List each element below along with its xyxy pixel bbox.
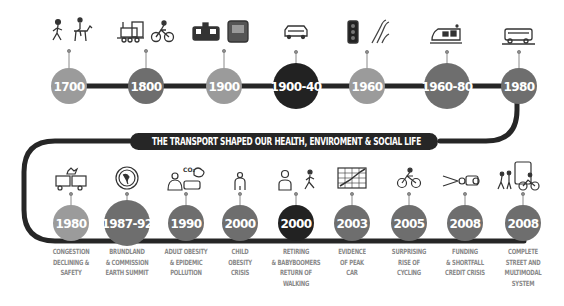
milestone-2008-complete: 2008 bbox=[505, 205, 541, 241]
svg-text:1800: 1800 bbox=[131, 80, 162, 94]
svg-text:2005: 2005 bbox=[394, 217, 425, 231]
walker-icon bbox=[305, 170, 314, 189]
light-rail-icon bbox=[430, 25, 462, 43]
subway-icon bbox=[228, 21, 248, 42]
milestone-1980-bottom: 1980 bbox=[53, 205, 89, 241]
label-line: SURPRISING bbox=[380, 247, 437, 258]
tram-icon bbox=[193, 23, 219, 40]
transport-timeline-infographic: 1700 1800 1900 1900-40 1960 1960-80 1980 bbox=[0, 0, 564, 306]
label-line: POLLUTION bbox=[157, 268, 214, 279]
svg-text:1900: 1900 bbox=[209, 80, 240, 94]
label-line: RETURN OF bbox=[267, 268, 324, 279]
label-line: OF PEAK bbox=[323, 258, 380, 269]
label-line: FUNDING bbox=[436, 247, 493, 258]
label-line: CRISIS bbox=[211, 268, 268, 279]
milestone-2008-funding: 2008 bbox=[447, 205, 483, 241]
cyclist-icon bbox=[398, 168, 421, 188]
label-line: WALKING bbox=[267, 279, 324, 290]
milestone-1980-top: 1980 bbox=[501, 68, 537, 104]
milestone-1900: 1900 bbox=[206, 68, 242, 104]
milestone-2000-child: 2000 bbox=[222, 205, 258, 241]
label-line: CHILD bbox=[211, 247, 268, 258]
svg-text:1960-80: 1960-80 bbox=[422, 80, 473, 94]
scissors-money-icon bbox=[443, 176, 479, 186]
label-funding: FUNDING & SHORTFALL CREDIT CRISIS bbox=[436, 247, 493, 279]
svg-text:1990: 1990 bbox=[171, 217, 202, 231]
label-cycling: SURPRISING RISE OF CYCLING bbox=[380, 247, 437, 279]
svg-text:2003: 2003 bbox=[337, 217, 368, 231]
milestone-1800: 1800 bbox=[128, 68, 164, 104]
bicycle-icon bbox=[152, 21, 174, 42]
child-icon bbox=[235, 173, 245, 191]
label-line: SAFETY bbox=[42, 268, 99, 279]
label-line: & EPIDEMIC bbox=[157, 258, 214, 269]
milestone-1960: 1960 bbox=[349, 68, 385, 104]
label-line: ADULT OBESITY bbox=[157, 247, 214, 258]
label-congestion: CONGESTION DECLINING & SAFETY bbox=[42, 247, 99, 279]
top-row: 1700 1800 1900 1900-40 1960 1960-80 1980 bbox=[51, 18, 537, 109]
elderly-person-icon bbox=[279, 171, 291, 191]
multimodal-street-icon bbox=[498, 162, 539, 190]
svg-text:2008: 2008 bbox=[450, 217, 481, 231]
timeline-banner: THE TRANSPORT SHAPED OUR HEALTH, ENVIROM… bbox=[130, 133, 438, 150]
banner-text: THE TRANSPORT SHAPED OUR HEALTH, ENVIROM… bbox=[152, 133, 421, 150]
peak-chart-icon bbox=[338, 168, 366, 188]
svg-text:1987-92: 1987-92 bbox=[102, 217, 153, 231]
label-line: CONGESTION bbox=[42, 247, 99, 258]
milestone-1960-80: 1960-80 bbox=[422, 63, 473, 109]
label-line: SYSTEM bbox=[494, 279, 551, 290]
label-brundland: BRUNDLAND & COMMISSION EARTH SUMMIT bbox=[98, 247, 155, 279]
label-line: DECLINING & bbox=[42, 258, 99, 269]
svg-text:2008: 2008 bbox=[508, 217, 539, 231]
label-line: & SHORTFALL bbox=[436, 258, 493, 269]
horse-rider-icon bbox=[74, 18, 92, 41]
label-retiring: RETIRING & BABYBOOMERS RETURN OF WALKING bbox=[267, 247, 324, 289]
steam-train-icon bbox=[117, 22, 144, 42]
label-line: COMPLETE bbox=[494, 247, 551, 258]
un-globe-icon bbox=[116, 167, 138, 189]
milestone-2005: 2005 bbox=[391, 205, 427, 241]
milestone-1990: 1990 bbox=[168, 205, 204, 241]
label-line: RISE OF bbox=[380, 258, 437, 269]
svg-text:1960: 1960 bbox=[352, 80, 383, 94]
bus-icon bbox=[502, 29, 535, 44]
walking-person-icon bbox=[53, 20, 62, 40]
label-adult-obesity: ADULT OBESITY & EPIDEMIC POLLUTION bbox=[157, 247, 214, 279]
label-line: STREET AND bbox=[494, 258, 551, 269]
label-line: EVIDENCE bbox=[323, 247, 380, 258]
label-line: & BABYBOOMERS bbox=[267, 258, 324, 269]
obese-person-co2-car-icon: CO₂ bbox=[168, 166, 204, 190]
label-child-obesity: CHILD OBESITY CRISIS bbox=[211, 247, 268, 279]
label-complete-street: COMPLETE STREET AND MULTIMODAL SYSTEM bbox=[494, 247, 551, 289]
milestone-1700: 1700 bbox=[51, 68, 87, 104]
label-line: OBESITY bbox=[211, 258, 268, 269]
label-peak-car: EVIDENCE OF PEAK CAR bbox=[323, 247, 380, 279]
svg-text:2000: 2000 bbox=[281, 217, 312, 231]
label-line: RETIRING bbox=[267, 247, 324, 258]
svg-text:2000: 2000 bbox=[225, 217, 256, 231]
label-line: MULTIMODAL bbox=[494, 268, 551, 279]
label-line: CAR bbox=[323, 268, 380, 279]
bottom-row: 1980 1987-92 1990 2000 2000 2003 2005 2 bbox=[53, 162, 541, 246]
svg-text:1700: 1700 bbox=[54, 80, 85, 94]
label-line: CYCLING bbox=[380, 268, 437, 279]
svg-text:1900-40: 1900-40 bbox=[271, 80, 322, 94]
label-line: BRUNDLAND bbox=[98, 247, 155, 258]
label-line: CREDIT CRISIS bbox=[436, 268, 493, 279]
svg-text:1980: 1980 bbox=[504, 80, 535, 94]
label-line: & COMMISSION bbox=[98, 258, 155, 269]
car-icon bbox=[285, 26, 307, 39]
highway-icon bbox=[372, 20, 389, 43]
traffic-light-icon bbox=[348, 21, 358, 43]
label-line: EARTH SUMMIT bbox=[98, 268, 155, 279]
car-crash-icon bbox=[56, 168, 86, 190]
svg-text:1980: 1980 bbox=[56, 217, 87, 231]
milestone-2000-retiring: 2000 bbox=[278, 205, 314, 241]
milestone-2003: 2003 bbox=[334, 205, 370, 241]
milestone-1900-40: 1900-40 bbox=[271, 63, 322, 109]
